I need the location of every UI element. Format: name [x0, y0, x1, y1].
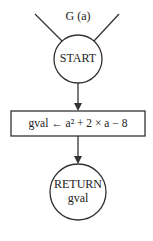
arrowhead-icon — [74, 103, 82, 111]
arrowhead-icon — [74, 156, 82, 164]
function-label: G (a) — [48, 10, 108, 23]
assign-label: gval ← a² + 2 × a − 8 — [11, 117, 145, 130]
return-label-line1: RETURN — [48, 178, 108, 191]
return-label-line2: gval — [48, 192, 108, 205]
start-label: START — [48, 52, 108, 65]
